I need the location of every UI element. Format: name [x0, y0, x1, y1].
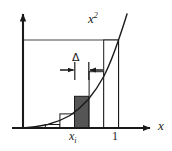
x-sub-i-label: xi: [69, 130, 77, 145]
x-axis-label: x: [158, 119, 164, 132]
riemann-sum-figure: x2 Δ xi 1 x: [0, 0, 172, 151]
riemann-sum-plot: [0, 0, 172, 151]
riemann-bars: [45, 40, 118, 128]
curve-label-exponent: 2: [94, 11, 98, 20]
x-sub-i-subscript: i: [74, 136, 76, 145]
x-tick-label-one: 1: [112, 130, 118, 142]
delta-label: Δ: [72, 52, 80, 63]
riemann-bar: [60, 114, 75, 128]
riemann-bar: [104, 40, 119, 128]
curve-label: x2: [88, 12, 98, 25]
